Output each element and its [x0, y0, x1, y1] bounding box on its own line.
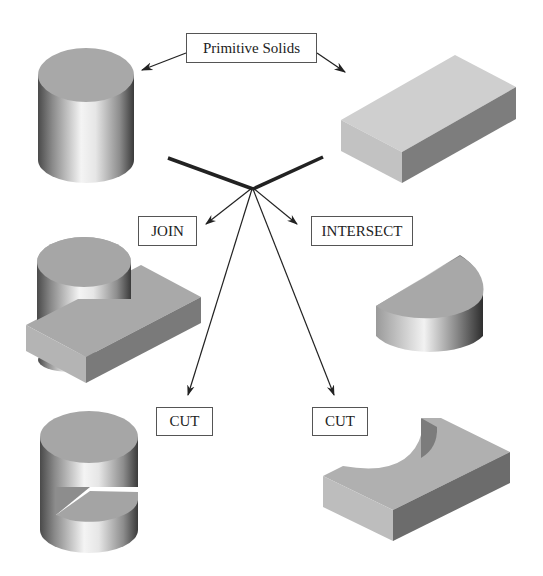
boolean-operations-diagram: Primitive Solids JOIN INTERSECT CUT CUT	[0, 0, 543, 576]
intersect-label: INTERSECT	[311, 216, 413, 246]
intersect-result	[376, 255, 484, 352]
join-result	[26, 237, 201, 383]
arrow-to-cylinder	[142, 53, 186, 70]
combine-line-left	[168, 158, 253, 189]
arrow-cut-left	[188, 189, 252, 395]
cut-box-result	[323, 418, 510, 541]
primitive-box	[341, 55, 516, 183]
arrow-to-box	[317, 53, 345, 72]
cut-cylinder-result	[40, 411, 138, 553]
arrow-join	[206, 188, 252, 224]
primitive-solids-label: Primitive Solids	[186, 33, 317, 63]
primitive-cylinder	[38, 48, 134, 183]
cut-right-label: CUT	[312, 407, 368, 436]
cut-left-label: CUT	[156, 407, 213, 436]
join-label: JOIN	[138, 216, 197, 246]
combine-line-right	[253, 157, 323, 189]
